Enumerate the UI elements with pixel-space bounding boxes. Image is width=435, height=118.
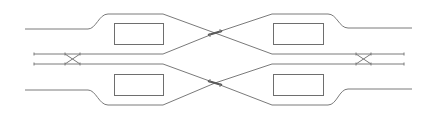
track-inner-bottom [34, 64, 404, 83]
track-outer-bottom [25, 83, 412, 105]
platform-bottom-left [115, 75, 164, 96]
platform-bottom-right [274, 75, 324, 96]
crossing-lower [208, 79, 222, 87]
track-inner-top [34, 33, 404, 54]
track-outer-top [25, 14, 412, 33]
crossing-upper [208, 29, 222, 37]
platform-top-left [115, 24, 164, 45]
track-diagram [0, 0, 435, 118]
platform-top-right [274, 24, 324, 45]
